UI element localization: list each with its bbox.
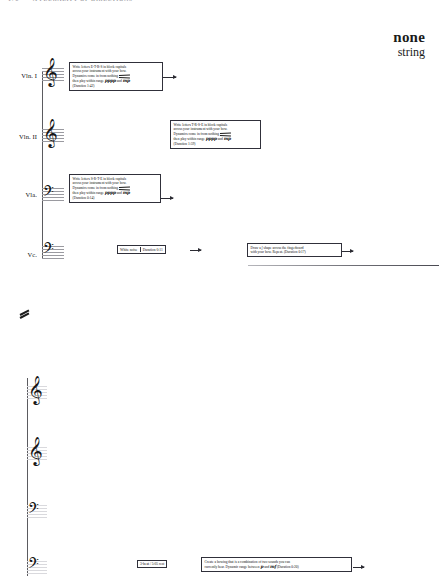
continuation-arrow-bowing [353,567,364,568]
continuation-arrow-cello-shape [342,251,353,252]
crescendo-hairpin-icon [119,74,130,77]
dynamic-p: p [260,564,263,569]
system-bracket-line [42,72,43,258]
tremolo-slash-mark-icon [20,313,29,320]
running-header-title: A PLURALITY OF DIRECTIONS [33,0,133,2]
instruction-and: and [117,191,122,195]
instruction-line: currently hear. Dynamic range between p … [205,564,350,570]
treble-clef-icon: 𝄞 [28,377,43,402]
continuation-arrow-violin-1 [163,77,176,78]
dynamic-pppp: pppp [105,190,116,195]
instruction-dynamics-text: Dynamics come in from nothing [73,74,119,78]
instruction-box-violin-1: Write letters E-T-R-S in block capitals … [69,62,163,91]
score-page: 176A PLURALITY OF DIRECTIONS none string… [0,0,439,582]
instruction-and: and [218,137,223,141]
crescendo-hairpin-icon [220,132,231,135]
instruction-box-viola: Write letters S-R-T-E in block capitals … [69,174,161,203]
bass-clef-icon: 𝄢 [43,242,54,259]
bass-clef-icon: 𝄢 [28,557,39,574]
instruction-dynamics-text: Dynamics come in from nothing [174,132,220,136]
sustain-line-cello [248,265,439,266]
instruction-and: and [264,565,269,569]
running-header: 176A PLURALITY OF DIRECTIONS [8,0,133,2]
instruction-range-text: then play within range [73,79,104,83]
system-bracket-line [27,378,28,576]
continuation-arrow-cello-noise [190,250,201,251]
instruction-dynamics-text: Dynamics come in from nothing [73,186,119,190]
alto-clef-icon: 𝄢 [43,185,54,202]
instruction-box-rest: 3-beat / 5:05 rest [137,560,167,568]
instruction-duration: (Duration 0:14) [73,196,159,201]
page-title: none [393,30,425,45]
instrument-label-violin-2: Vln. II [6,133,37,140]
continuation-arrow-viola [161,198,173,199]
instruction-range-text: then play within range [174,137,205,141]
dynamic-pppp: pppp [105,78,116,83]
dynamic-mp: mp [123,78,130,83]
white-noise-duration: Duration 0:11 [143,248,163,252]
instruction-duration: (Duration 0:20) [277,565,299,569]
title-block: none string [393,30,425,59]
instruction-duration: (Duration 1:42) [73,84,161,89]
instruction-range-text: currently hear. Dynamic range between [205,565,260,569]
treble-clef-icon: 𝄞 [43,120,58,145]
instruction-and: and [117,79,122,83]
alto-clef-icon: 𝄢 [28,502,39,519]
dynamic-mp: mp [224,136,231,141]
treble-clef-icon: 𝄞 [28,438,43,463]
page-subtitle: string [393,46,425,58]
box-divider [140,247,141,252]
white-noise-label: White noise [120,248,137,252]
dynamic-mf: mf [270,564,276,569]
instrument-label-viola: Vla. [6,191,37,198]
rest-label: 3-beat / 5:05 rest [140,562,164,566]
instruction-line: with your bow. Repeat. (Duration 0:17) [251,250,340,255]
dynamic-mp: mp [123,190,130,195]
treble-clef-icon: 𝄞 [43,59,58,84]
folio-number: 176 [8,0,19,2]
instruction-box-bowing: Create a bowing that is a combination of… [201,557,352,572]
dynamic-pppp: pppp [206,136,217,141]
instruction-box-violin-2: Write letters T-R-S-E in block capitals … [170,120,261,149]
instruction-box-cello-shape: Draw a ʃ shape across the fingerboard wi… [247,243,342,257]
instrument-label-violin-1: Vln. I [6,72,37,79]
instruction-range-text: then play within range [73,191,104,195]
instruction-duration: (Duration 1:59) [174,142,259,147]
instrument-label-cello: Vc. [6,251,37,258]
instruction-box-cello-white-noise: White noiseDuration 0:11 [117,245,166,254]
crescendo-hairpin-icon [119,186,130,189]
